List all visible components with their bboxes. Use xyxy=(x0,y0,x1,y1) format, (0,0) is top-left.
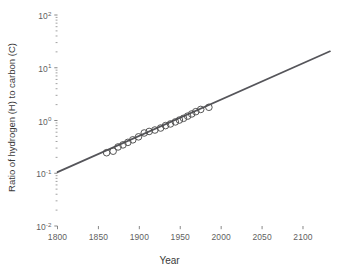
y-axis-label-container: Ratio of hydrogen (H) to carbon (C) xyxy=(0,0,20,240)
y-tick-label: 101 xyxy=(24,62,52,74)
y-axis-label: Ratio of hydrogen (H) to carbon (C) xyxy=(6,13,17,223)
y-tick-label: 100 xyxy=(24,115,52,127)
x-tick-label: 2050 xyxy=(242,232,282,242)
data-point-markers xyxy=(103,104,212,156)
x-tick-label: 1950 xyxy=(160,232,200,242)
x-tick-label: 2000 xyxy=(201,232,241,242)
y-tick-label: 10-2 xyxy=(24,220,52,232)
x-tick-marks xyxy=(58,226,303,229)
chart-figure: Ratio of hydrogen (H) to carbon (C) Year… xyxy=(0,0,339,279)
x-tick-label: 1900 xyxy=(119,232,159,242)
x-tick-label: 2100 xyxy=(283,232,323,242)
x-tick-label: 1850 xyxy=(78,232,118,242)
x-tick-label: 1800 xyxy=(38,232,78,242)
y-tick-marks xyxy=(54,15,57,226)
x-axis-label: Year xyxy=(0,255,339,266)
y-tick-label: 102 xyxy=(24,9,52,21)
y-tick-label: 10-1 xyxy=(24,167,52,179)
